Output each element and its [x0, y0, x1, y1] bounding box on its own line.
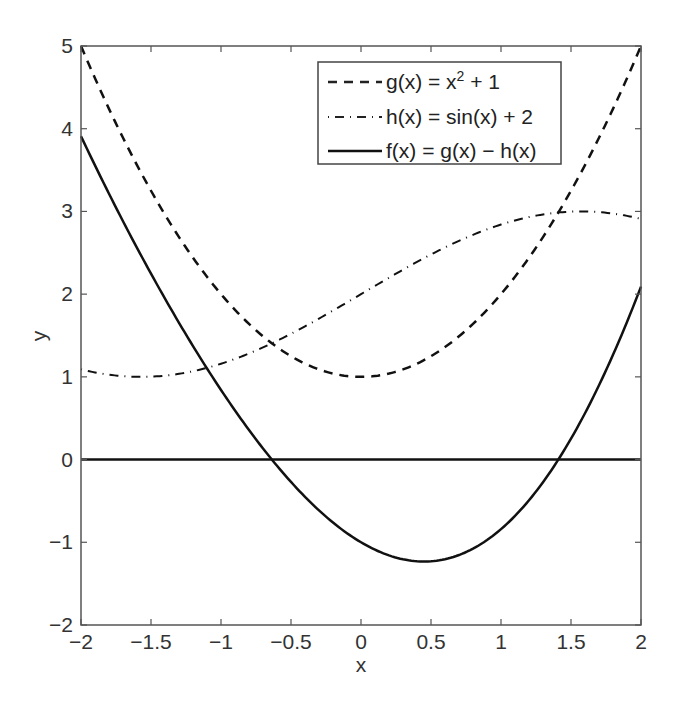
- x-tick-label: −1.5: [130, 630, 171, 653]
- y-tick-label: 2: [61, 282, 73, 305]
- y-tick-label: 3: [61, 199, 73, 222]
- x-tick-label: 2: [635, 630, 647, 653]
- line-chart: −2−1.5−1−0.500.511.52 −2−1012345 x y g(x…: [0, 0, 682, 707]
- legend-label-f: f(x) = g(x) − h(x): [386, 139, 537, 162]
- x-tick-labels: −2−1.5−1−0.500.511.52: [69, 630, 647, 653]
- y-tick-label: 1: [61, 365, 73, 388]
- x-tick-label: 1: [495, 630, 507, 653]
- y-tick-label: −1: [49, 530, 73, 553]
- x-axis-label: x: [356, 653, 367, 676]
- y-tick-labels: −2−1012345: [49, 34, 73, 636]
- y-tick-label: 4: [61, 117, 73, 140]
- legend: g(x) = x2 + 1 h(x) = sin(x) + 2 f(x) = g…: [318, 62, 561, 164]
- series-line: [81, 136, 641, 561]
- y-tick-label: 0: [61, 448, 73, 471]
- y-tick-label: 5: [61, 34, 73, 57]
- x-tick-label: 1.5: [556, 630, 585, 653]
- legend-label-g: g(x) = x2 + 1: [386, 68, 500, 93]
- x-tick-label: −1: [209, 630, 233, 653]
- y-axis-label: y: [27, 330, 50, 341]
- series-line: [81, 211, 641, 376]
- y-tick-label: −2: [49, 613, 73, 636]
- x-tick-label: 0.5: [416, 630, 445, 653]
- x-tick-label: −0.5: [270, 630, 311, 653]
- legend-label-h: h(x) = sin(x) + 2: [386, 105, 533, 128]
- x-tick-label: 0: [355, 630, 367, 653]
